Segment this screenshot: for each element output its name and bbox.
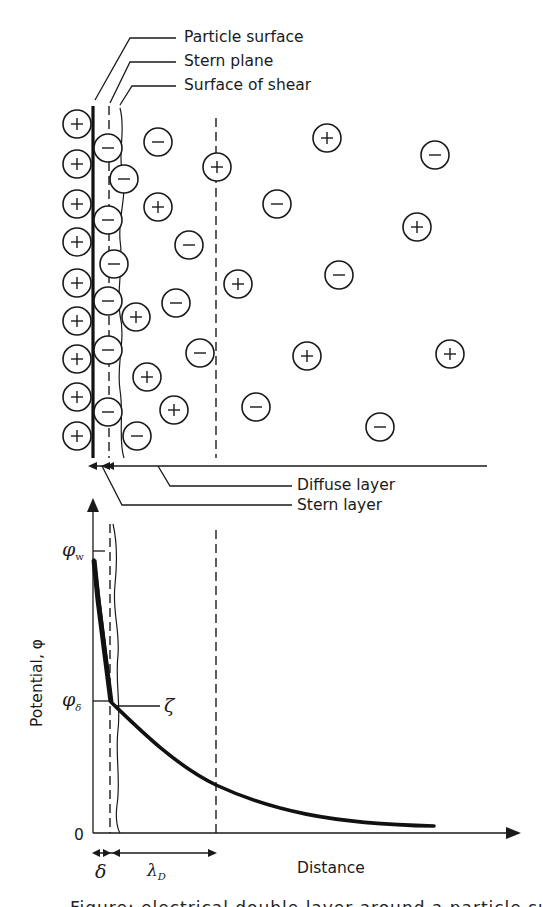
diffuse-layer-label: Diffuse layer bbox=[297, 476, 396, 494]
potential-curve bbox=[94, 560, 434, 826]
caption-text: Figure: electrical double layer around a… bbox=[0, 898, 543, 907]
lambda-arrow-left-icon bbox=[112, 849, 120, 857]
phi-w-label: φw bbox=[62, 538, 84, 562]
layer-extent-indicator bbox=[88, 462, 487, 505]
positive-ion-icon bbox=[63, 422, 91, 450]
positive-ion-icon bbox=[133, 363, 161, 391]
particle-surface-leader bbox=[95, 38, 176, 100]
negative-ion-icon bbox=[94, 336, 122, 364]
stern-plane-leader bbox=[110, 62, 176, 103]
positive-ion-icon bbox=[144, 193, 172, 221]
surface-of-shear-leader bbox=[120, 86, 176, 105]
negative-ion-icon bbox=[94, 398, 122, 426]
negative-ion-icon bbox=[94, 134, 122, 162]
positive-ion-icon bbox=[63, 345, 91, 373]
stern-drop-segment bbox=[94, 560, 111, 702]
positive-ion-icon bbox=[63, 190, 91, 218]
cut-off-caption: Figure: electrical double layer around a… bbox=[0, 897, 543, 907]
negative-ion-icon bbox=[94, 206, 122, 234]
top-leader-lines bbox=[95, 38, 176, 105]
y-axis-label: Potential, φ bbox=[28, 639, 46, 727]
ions-layer bbox=[63, 110, 464, 450]
lambda-d-label: λD bbox=[146, 860, 166, 882]
delta-arrow-left-icon bbox=[92, 849, 100, 857]
diffuse-layer-leader bbox=[158, 466, 292, 486]
positive-ion-icon bbox=[160, 396, 188, 424]
positive-ion-icon bbox=[122, 303, 150, 331]
negative-ion-icon bbox=[100, 250, 128, 278]
negative-ion-icon bbox=[162, 289, 190, 317]
surface-of-shear-label: Surface of shear bbox=[184, 76, 312, 94]
positive-ion-icon bbox=[63, 228, 91, 256]
negative-ion-icon bbox=[325, 261, 353, 289]
potential-plot bbox=[87, 498, 521, 839]
positive-ion-icon bbox=[63, 307, 91, 335]
negative-ion-icon bbox=[186, 339, 214, 367]
x-axis-arrow-icon bbox=[506, 827, 521, 839]
positive-ion-icon bbox=[63, 150, 91, 178]
positive-ion-icon bbox=[63, 110, 91, 138]
phi-delta-label: φδ bbox=[62, 688, 81, 713]
negative-ion-icon bbox=[242, 393, 270, 421]
positive-ion-icon bbox=[224, 270, 252, 298]
delta-label: δ bbox=[95, 860, 106, 882]
negative-ion-icon bbox=[421, 141, 449, 169]
lambda-arrow-right-icon bbox=[208, 849, 217, 857]
y-axis-arrow-icon bbox=[87, 498, 99, 512]
negative-ion-icon bbox=[144, 128, 172, 156]
negative-ion-icon bbox=[110, 165, 138, 193]
delta-arrow-right-icon bbox=[103, 849, 111, 857]
dimension-arrows bbox=[92, 849, 217, 857]
positive-ion-icon bbox=[436, 340, 464, 368]
stern-plane-label: Stern plane bbox=[184, 52, 273, 70]
negative-ion-icon bbox=[123, 422, 151, 450]
negative-ion-icon bbox=[366, 413, 394, 441]
positive-ion-icon bbox=[293, 342, 321, 370]
negative-ion-icon bbox=[263, 190, 291, 218]
shear-surface-plot-wavy bbox=[113, 524, 120, 833]
positive-ion-icon bbox=[313, 124, 341, 152]
positive-ion-icon bbox=[63, 383, 91, 411]
double-layer-diagram: Particle surface Stern plane Surface of … bbox=[0, 0, 543, 907]
zero-label: 0 bbox=[74, 826, 84, 844]
x-axis-label: Distance bbox=[297, 859, 365, 877]
positive-ion-icon bbox=[403, 213, 431, 241]
stern-layer-label: Stern layer bbox=[297, 496, 383, 514]
negative-ion-icon bbox=[175, 231, 203, 259]
negative-ion-icon bbox=[94, 287, 122, 315]
particle-surface-label: Particle surface bbox=[184, 28, 303, 46]
positive-ion-icon bbox=[63, 269, 91, 297]
positive-ion-icon bbox=[203, 153, 231, 181]
zeta-label: ζ bbox=[164, 694, 176, 716]
arrowhead-left-icon bbox=[88, 462, 97, 470]
